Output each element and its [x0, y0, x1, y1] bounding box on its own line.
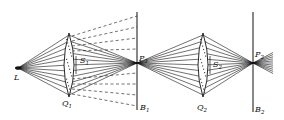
label-screen-b2: B2	[254, 105, 265, 115]
label-source-l: L	[13, 73, 19, 82]
optical-ray-diagram: L Q1 S1 P1 B1 Q2 S2 P2 B2	[0, 0, 284, 120]
label-lens-q2: Q2	[197, 103, 208, 113]
label-lens-q1: Q1	[62, 99, 72, 109]
label-focus-p1: P1	[138, 54, 148, 64]
label-aperture-s2: S2	[213, 60, 222, 70]
label-focus-p2: P2	[254, 50, 264, 60]
light-rays	[18, 35, 273, 95]
source-point-l	[15, 66, 21, 70]
label-aperture-s1: S1	[80, 56, 89, 66]
label-screen-b1: B1	[139, 103, 149, 113]
